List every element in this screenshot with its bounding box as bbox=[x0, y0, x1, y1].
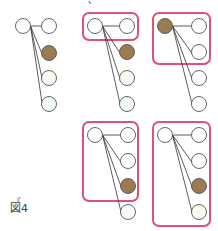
child-node-circle bbox=[121, 154, 136, 169]
root-node-circle bbox=[16, 19, 31, 34]
child-node-circle bbox=[121, 179, 136, 194]
child-node-circle bbox=[42, 46, 57, 61]
edge bbox=[173, 135, 193, 163]
edge bbox=[31, 26, 43, 106]
edge bbox=[103, 26, 121, 106]
figure-label: ず 図4 bbox=[10, 203, 28, 214]
edge bbox=[31, 26, 43, 80]
child-node-circle bbox=[120, 19, 135, 34]
tick-mark bbox=[89, 1, 91, 4]
child-node-circle bbox=[192, 97, 207, 112]
child-node-circle bbox=[192, 45, 207, 60]
child-node-circle bbox=[121, 205, 136, 220]
edge bbox=[103, 135, 122, 188]
child-node-circle bbox=[121, 128, 136, 143]
tree-diagram bbox=[0, 0, 218, 231]
edge bbox=[103, 135, 122, 214]
child-node-circle bbox=[192, 128, 207, 143]
child-node-circle bbox=[120, 71, 135, 86]
edge bbox=[103, 135, 122, 163]
figure-label-ruby: ず bbox=[16, 197, 21, 202]
child-node-circle bbox=[192, 179, 207, 194]
child-node-circle bbox=[120, 45, 135, 60]
edge bbox=[173, 26, 193, 54]
figure-label-text: 図4 bbox=[10, 202, 28, 215]
root-node-circle bbox=[158, 128, 173, 143]
edge bbox=[173, 135, 193, 188]
child-node-circle bbox=[192, 205, 207, 220]
edge bbox=[173, 135, 193, 214]
child-node-circle bbox=[192, 154, 207, 169]
child-node-circle bbox=[42, 19, 57, 34]
edge bbox=[173, 26, 193, 80]
child-node-circle bbox=[42, 71, 57, 86]
edge bbox=[103, 26, 121, 80]
child-node-circle bbox=[192, 19, 207, 34]
child-node-circle bbox=[120, 97, 135, 112]
root-node-circle bbox=[88, 128, 103, 143]
root-node-circle bbox=[88, 19, 103, 34]
child-node-circle bbox=[192, 71, 207, 86]
root-node-circle bbox=[158, 19, 173, 34]
child-node-circle bbox=[42, 97, 57, 112]
edge bbox=[173, 26, 193, 106]
